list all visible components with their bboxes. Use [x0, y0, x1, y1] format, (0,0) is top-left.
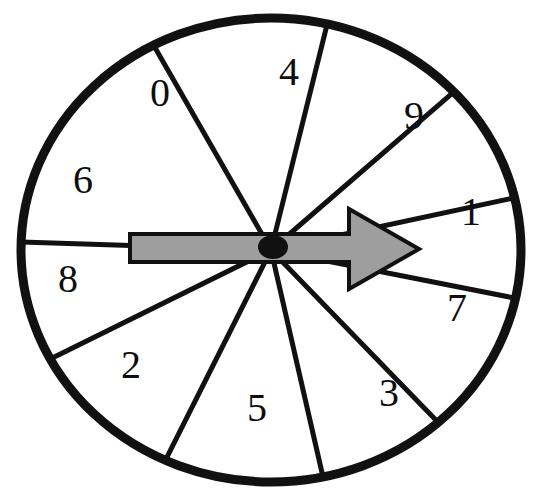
sector-label-2: 2 [121, 342, 141, 387]
sector-label-0: 0 [150, 70, 170, 115]
spinner-hub-dot [258, 235, 288, 259]
sector-label-5: 5 [247, 385, 267, 430]
sector-label-8: 8 [58, 256, 78, 301]
sector-label-4: 4 [279, 49, 299, 94]
sector-label-1: 1 [461, 189, 481, 234]
spinner-figure: 0491735286 [0, 0, 539, 503]
sector-label-9: 9 [404, 93, 424, 138]
sector-label-3: 3 [379, 370, 399, 415]
sector-label-7: 7 [447, 285, 467, 330]
sector-label-6: 6 [73, 157, 93, 202]
spinner-canvas: 0491735286 [0, 0, 539, 503]
